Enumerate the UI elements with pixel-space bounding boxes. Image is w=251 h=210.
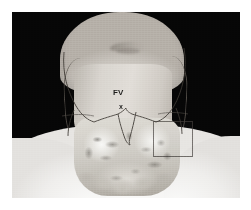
thyroid-lower-margin xyxy=(76,172,178,198)
region-of-interest-box[interactable] xyxy=(153,121,193,157)
scan-image-frame xyxy=(12,12,240,198)
philtrum-shadow xyxy=(116,48,140,54)
annotation-marker-x: x xyxy=(119,103,123,110)
screenshot-root: FV x xyxy=(0,0,251,210)
annotation-label-fv: FV xyxy=(113,89,124,97)
